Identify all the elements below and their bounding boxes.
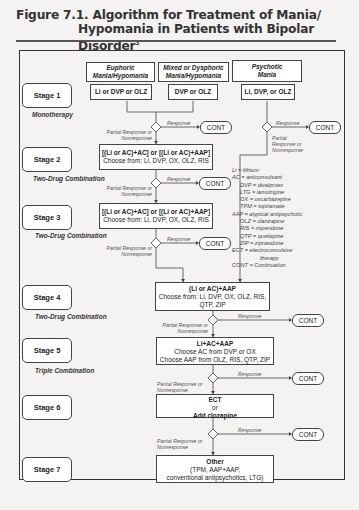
cont-stage-6: CONT <box>292 428 324 441</box>
stage-1-label: Stage 1 <box>22 83 72 108</box>
stage-6-box: ECT or Add clozapine <box>156 394 274 418</box>
partial-label: PartialResponse orNonresponse <box>272 135 303 153</box>
cont-stage-2: CONT <box>199 177 231 190</box>
stage-3-box: [(Li or AC)+AC] or [(Li or AC)+AAP] Choo… <box>99 203 213 229</box>
response-label: Response <box>238 427 261 433</box>
response-label: Response <box>167 236 190 242</box>
cont-stage-3: CONT <box>199 237 231 250</box>
response-label: Response <box>238 371 261 377</box>
response-label: Response <box>167 176 190 182</box>
response-label: Response <box>167 120 190 126</box>
cont-stage-5: CONT <box>292 372 324 385</box>
stage-3-label: Stage 3 <box>22 205 72 230</box>
stage-4-subtitle: Two-Drug Combination <box>35 313 107 320</box>
abbreviation-legend: Li = lithium AC = anticonvulsant DVP = d… <box>232 167 342 269</box>
cont-stage-4: CONT <box>292 314 324 327</box>
stage-6-label: Stage 6 <box>22 395 72 420</box>
response-label: Response <box>276 120 299 126</box>
stage-2-label: Stage 2 <box>22 147 72 172</box>
partial-label: Partial Response orNonresponse <box>160 322 208 334</box>
header-euphoric: EuphoricMania/Hypomania <box>86 62 155 82</box>
stage-1-subtitle: Monotherapy <box>32 111 73 118</box>
stage-5-label: Stage 5 <box>22 338 72 363</box>
drug-euphoric: Li or DVP or OLZ <box>90 84 152 100</box>
partial-label: Partial Response orNonresponse <box>104 129 152 141</box>
stage-4-box: (Li or AC)+AAP Choose from: Li, DVP, OX,… <box>155 282 270 311</box>
stage-4-label: Stage 4 <box>22 285 72 310</box>
partial-label: Partial Response orNonresponse <box>157 381 203 393</box>
header-psychotic: PsychoticMania <box>232 60 302 82</box>
stage-7-label: Stage 7 <box>22 457 72 482</box>
partial-label: Partial Response orNonresponse <box>157 438 203 450</box>
stage-5-box: Li+AC+AAP Choose AC from DVP or OX Choos… <box>156 337 274 365</box>
cont-stage-1-psychotic: CONT <box>309 121 341 134</box>
stage-7-box: Other (TPM, AAP+AAP, conventional antips… <box>156 455 274 483</box>
header-mixed: Mixed or DysphoricMania/Hypomania <box>158 62 229 82</box>
drug-mixed: DVP or OLZ <box>168 84 218 100</box>
drug-psychotic: Li, DVP, or OLZ <box>241 84 295 100</box>
stage-2-subtitle: Two-Drug Combination <box>33 175 105 182</box>
cont-stage-1: CONT <box>200 121 232 134</box>
stage-5-subtitle: Triple Combination <box>35 367 94 374</box>
partial-label: Partial Response orNonresponse <box>104 185 152 197</box>
stage-2-box: [(Li or AC)+AC] or [(Li or AC)+AAP] Choo… <box>99 144 213 170</box>
stage-3-subtitle: Two-Drug Combination <box>35 232 107 239</box>
partial-label: Partial Response orNonresponse <box>104 245 152 257</box>
response-label: Response <box>238 313 261 319</box>
